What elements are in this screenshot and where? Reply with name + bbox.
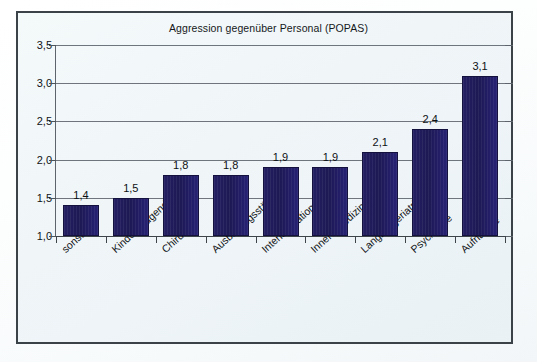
bar [63,205,99,236]
bar-value-label: 3,1 [472,60,487,72]
bar [213,175,249,236]
x-axis-tick-mark [106,236,107,243]
bar [412,129,448,236]
y-axis-tick-mark [49,160,56,161]
bar [113,198,149,236]
y-axis-tick-mark [49,236,56,237]
bar-value-label: 1,4 [73,189,88,201]
x-axis-tick-mark [505,236,506,243]
y-axis-tick-mark-right [505,160,513,161]
bar [462,76,498,236]
bar [312,167,348,236]
x-axis-tick-mark [455,236,456,243]
bar-value-label: 1,9 [273,151,288,163]
x-axis-tick-mark [56,236,57,243]
y-axis-tick-mark [49,83,56,84]
x-axis-tick-mark [355,236,356,243]
x-axis-tick-mark [156,236,157,243]
bar-value-label: 1,5 [123,182,138,194]
bar [163,175,199,236]
y-axis-tick-mark [49,121,56,122]
x-axis-tick-mark [405,236,406,243]
y-axis-tick-mark-right [505,236,513,237]
bar-value-label: 1,8 [173,159,188,171]
bar-value-label: 1,9 [323,151,338,163]
bar [362,152,398,236]
y-axis-tick-mark-right [505,198,513,199]
bar-value-label: 1,8 [223,159,238,171]
x-axis-tick-mark [256,236,257,243]
y-axis-tick-mark-right [505,83,513,84]
bar [263,167,299,236]
x-axis-tick-mark [206,236,207,243]
y-axis-tick-mark [49,45,56,46]
y-axis-tick-mark [49,198,56,199]
y-axis-tick-mark-right [505,121,513,122]
bar-value-label: 2,4 [423,113,438,125]
bar-value-label: 2,1 [373,136,388,148]
x-axis-tick-mark [305,236,306,243]
y-axis-tick-mark-right [505,45,513,46]
